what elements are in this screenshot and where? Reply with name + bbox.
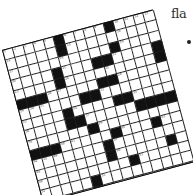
clue-number: 11 xyxy=(124,17,128,21)
crossword-grid: 1234567891011121314151617181920212223242… xyxy=(2,10,193,195)
clue-number: 24 xyxy=(65,76,69,80)
clue-number: 15 xyxy=(67,43,71,47)
clue-number: 25 xyxy=(105,66,109,70)
clue-number: 38 xyxy=(28,140,32,144)
clue-number: 35 xyxy=(133,90,137,94)
clue-number: 33 xyxy=(23,120,27,124)
clue-number: 17 xyxy=(9,70,13,74)
clue-number: 31 xyxy=(40,104,44,108)
clue-number: 26 xyxy=(47,92,51,96)
clue-number: 40 xyxy=(61,142,65,146)
clue-number: 50 xyxy=(39,180,43,184)
clue-number: 9 xyxy=(94,26,97,29)
clue-number: 21 xyxy=(62,66,66,70)
clue-number: 51 xyxy=(139,153,143,157)
clue-number: 47 xyxy=(114,138,118,142)
clue-number: 29 xyxy=(20,110,24,114)
clue-number: 3 xyxy=(24,45,27,48)
clue-number: 53 xyxy=(102,174,106,178)
clue-number: 46 xyxy=(53,155,57,159)
clue-number: 16 xyxy=(117,30,121,34)
clue-number: 48 xyxy=(36,170,40,174)
clue-number: 14 xyxy=(6,60,10,64)
clue-number: 23 xyxy=(14,90,18,94)
clue-number: 18 xyxy=(59,56,63,60)
clue-number: 19 xyxy=(119,40,123,44)
clue-number: 1 xyxy=(4,50,7,53)
clue-number: 41 xyxy=(71,139,75,143)
clue-number: 13 xyxy=(144,12,148,16)
clue-number: 42 xyxy=(121,126,125,130)
clue-number: 49 xyxy=(116,149,120,153)
clue-number: 7 xyxy=(74,31,77,34)
clue-number: 45 xyxy=(43,157,47,161)
clue-number: 32 xyxy=(100,88,104,92)
clue-number: 4 xyxy=(34,42,37,45)
clue-number: 20 xyxy=(12,80,16,84)
clue-number: 6 xyxy=(64,34,67,37)
clue-number: 34 xyxy=(73,106,77,110)
clue-number: 22 xyxy=(112,53,116,57)
clue-number: 39 xyxy=(98,121,102,125)
clue-number: 43 xyxy=(161,115,165,119)
clue-number: 8 xyxy=(84,29,87,32)
crossword-puzzle: 1234567891011121314151617181920212223242… xyxy=(2,10,193,195)
side-text: fla xyxy=(171,6,186,21)
clue-number: 10 xyxy=(114,20,118,24)
clue-number: 2 xyxy=(14,47,17,50)
clue-number: 44 xyxy=(33,160,37,164)
clue-number: 37 xyxy=(85,114,89,118)
puzzle-cell[interactable] xyxy=(181,151,193,164)
clue-number: 30 xyxy=(30,107,34,111)
clue-number: 12 xyxy=(134,15,138,19)
clue-number: 52 xyxy=(41,190,45,194)
clue-number: 36 xyxy=(25,130,29,134)
bullet-icon xyxy=(187,40,191,44)
clue-number: 5 xyxy=(44,39,47,42)
clue-number: 27 xyxy=(57,89,61,93)
clue-number: 28 xyxy=(118,73,122,77)
